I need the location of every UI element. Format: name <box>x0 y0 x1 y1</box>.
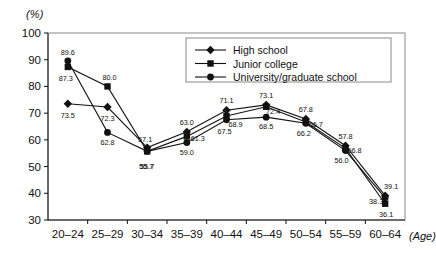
data-point-label: 71.1 <box>219 96 233 105</box>
data-point-label: 57.8 <box>338 132 352 141</box>
legend-label: Junior college <box>233 58 298 70</box>
y-axis-tick-label: 60 <box>28 134 41 146</box>
data-point-label: 87.3 <box>59 74 73 83</box>
x-axis-tick-label: 35–39 <box>171 228 203 240</box>
data-point-label: 56.0 <box>334 156 348 165</box>
y-axis-tick-label: 100 <box>22 27 41 39</box>
marker-square <box>184 133 190 139</box>
data-point-label: 67.8 <box>299 105 313 114</box>
legend: High schoolJunior collegeUniversity/grad… <box>186 38 391 83</box>
legend-label: High school <box>233 44 288 56</box>
y-axis-tick-label: 30 <box>28 214 41 226</box>
data-point-label: 38.3 <box>369 197 383 206</box>
data-point-label: 59.0 <box>180 148 194 157</box>
x-axis-tick-label: 30–34 <box>131 228 164 240</box>
data-point-label: 62.8 <box>100 138 114 147</box>
data-point-label: 63.0 <box>180 118 194 127</box>
data-point-label: 73.5 <box>61 111 75 120</box>
marker-circle <box>223 116 230 123</box>
x-axis-tick-label: 25–29 <box>92 228 124 240</box>
marker-square-icon <box>207 60 213 66</box>
y-axis-tick-label: 90 <box>28 54 41 66</box>
x-axis-tick-label: 55–59 <box>330 228 362 240</box>
y-axis-tick-label: 70 <box>28 107 41 119</box>
marker-diamond <box>64 100 72 108</box>
legend-label: University/graduate school <box>233 71 357 83</box>
data-point-label: 39.1 <box>384 182 398 191</box>
data-point-label: 72.4 <box>266 107 280 116</box>
data-point-label: 36.1 <box>379 210 393 219</box>
data-point-label: 80.0 <box>102 73 116 82</box>
marker-square <box>104 83 110 89</box>
data-point-label: 66.7 <box>309 120 323 129</box>
marker-circle <box>183 139 190 146</box>
data-point-label: 72.3 <box>100 114 114 123</box>
data-point-label: 56.8 <box>347 146 361 155</box>
y-axis-tick-label: 80 <box>28 80 41 92</box>
x-axis-tick-label: 40–44 <box>211 228 244 240</box>
marker-circle-icon <box>207 74 214 81</box>
data-point-label: 67.5 <box>217 127 231 136</box>
data-point-label: 66.2 <box>297 129 311 138</box>
marker-circle <box>302 120 309 127</box>
x-axis-tick-label: 50–54 <box>290 228 323 240</box>
marker-circle <box>104 129 111 136</box>
y-axis-tick-label: 50 <box>28 161 41 173</box>
data-point-label: 55.7 <box>140 162 154 171</box>
marker-circle <box>144 148 151 155</box>
data-point-label: 73.1 <box>259 91 273 100</box>
data-point-label: 89.6 <box>61 48 75 57</box>
x-axis-tick-label: 60–64 <box>369 228 402 240</box>
y-axis-tick-label: 40 <box>28 187 41 199</box>
x-axis-tick-label: 45–49 <box>250 228 282 240</box>
marker-circle <box>342 147 349 154</box>
marker-circle <box>263 114 270 121</box>
data-point-label: 68.5 <box>259 122 273 131</box>
x-axis-tick-label: 20–24 <box>52 228 85 240</box>
marker-circle <box>64 57 71 64</box>
